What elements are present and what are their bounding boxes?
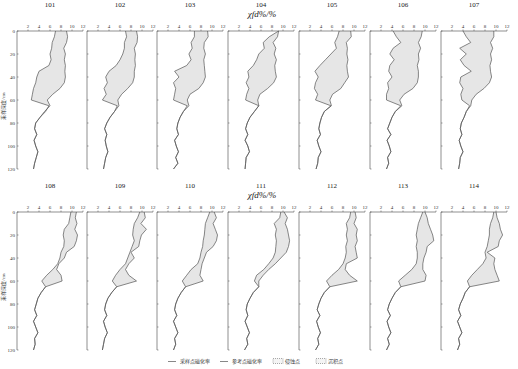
y-tick-label: 100 (8, 325, 16, 330)
panel-112: 11224681012 (299, 182, 368, 350)
x-tick-label: 10 (140, 24, 146, 29)
x-tick-label: 2 (451, 205, 454, 210)
x-tick-label: 2 (97, 205, 100, 210)
x-tick-label: 8 (342, 24, 345, 29)
x-tick-label: 4 (320, 205, 323, 210)
x-tick-label: 8 (484, 205, 487, 210)
panel-title: 104 (256, 1, 267, 9)
x-tick-label: 6 (119, 205, 122, 210)
panel-title: 106 (398, 1, 409, 9)
x-tick-label: 4 (38, 205, 41, 210)
panel-108: 10824681012020406080100120采样深度/cm (0, 182, 86, 353)
x-tick-label: 6 (119, 24, 122, 29)
x-tick-label: 12 (221, 24, 227, 29)
x-tick-label: 6 (473, 24, 476, 29)
y-tick-label: 120 (8, 348, 16, 353)
deposition-area (316, 212, 358, 350)
x-tick-label: 10 (494, 205, 500, 210)
panel-title: 108 (45, 182, 56, 190)
x-tick-label: 6 (331, 24, 334, 29)
y-axis-label: 采样深度/cm (0, 92, 7, 120)
y-axis-label: 采样深度/cm (0, 273, 7, 301)
x-tick-label: 2 (167, 205, 170, 210)
y-tick-label: 60 (10, 98, 16, 103)
panel-106: 10624681012 (370, 1, 439, 169)
panel-113: 11324681012 (370, 182, 439, 350)
x-tick-label: 4 (462, 24, 465, 29)
x-tick-label: 12 (363, 205, 369, 210)
panel-title: 103 (185, 1, 196, 9)
x-tick-label: 12 (151, 205, 157, 210)
x-tick-label: 4 (462, 205, 465, 210)
x-tick-label: 8 (130, 205, 133, 210)
panel-107: 10724681012 (441, 1, 510, 169)
x-tick-label: 10 (140, 205, 146, 210)
reference-line (245, 212, 281, 350)
x-tick-label: 12 (292, 205, 298, 210)
x-tick-label: 6 (402, 24, 405, 29)
panel-title: 110 (185, 182, 196, 190)
x-tick-label: 4 (249, 205, 252, 210)
x-tick-label: 4 (108, 205, 111, 210)
x-tick-label: 2 (97, 24, 100, 29)
x-tick-label: 10 (281, 205, 287, 210)
x-tick-label: 8 (271, 24, 274, 29)
panel-title: 109 (115, 182, 126, 190)
panel-title: 113 (398, 182, 409, 190)
x-tick-label: 2 (167, 24, 170, 29)
legend-label-sample: 采样点磁化率 (180, 358, 210, 365)
x-tick-label: 4 (178, 205, 181, 210)
x-tick-label: 6 (473, 205, 476, 210)
panel-title: 112 (327, 182, 338, 190)
x-tick-label: 12 (81, 24, 87, 29)
x-tick-label: 12 (151, 24, 157, 29)
panels-group: 10124681012020406080100120采样深度/cm1022468… (0, 1, 510, 353)
panel-110: 11024681012 (157, 182, 226, 350)
x-tick-label: 6 (260, 205, 263, 210)
erosion-area (387, 31, 423, 169)
x-tick-label: 8 (60, 205, 63, 210)
panel-title: 101 (45, 1, 56, 9)
erosion-area (245, 31, 279, 169)
panel-title: 114 (469, 182, 480, 190)
x-tick-label: 4 (108, 24, 111, 29)
x-tick-label: 2 (309, 205, 312, 210)
deposition-area (174, 212, 218, 350)
x-tick-label: 10 (352, 24, 358, 29)
erosion-area (174, 31, 209, 169)
panel-103: 10324681012 (157, 1, 226, 169)
x-tick-label: 10 (210, 205, 216, 210)
panel-title: 107 (469, 1, 480, 9)
deposition-area (245, 212, 290, 350)
panel-title: 111 (256, 182, 266, 190)
x-tick-label: 8 (342, 205, 345, 210)
x-tick-label: 2 (380, 205, 383, 210)
x-tick-label: 6 (402, 205, 405, 210)
panel-104: 10424681012 (228, 1, 297, 169)
x-tick-label: 4 (38, 24, 41, 29)
x-tick-label: 12 (434, 205, 440, 210)
x-tick-label: 12 (81, 205, 87, 210)
x-tick-label: 10 (70, 24, 76, 29)
y-tick-label: 100 (8, 144, 16, 149)
x-tick-label: 10 (210, 24, 216, 29)
panel-101: 10124681012020406080100120采样深度/cm (0, 1, 86, 172)
x-axis-label-bottom: χfd%/% (247, 190, 276, 200)
legend: 采样点磁化率参考点磁化率侵蚀点沉积点 (168, 358, 343, 365)
x-tick-label: 10 (281, 24, 287, 29)
x-tick-label: 4 (320, 24, 323, 29)
x-tick-label: 8 (413, 205, 416, 210)
x-tick-label: 2 (309, 24, 312, 29)
x-tick-label: 4 (178, 24, 181, 29)
x-tick-label: 12 (221, 205, 227, 210)
y-tick-label: 60 (10, 279, 16, 284)
y-tick-label: 20 (10, 52, 16, 57)
y-tick-label: 80 (10, 302, 16, 307)
deposition-area (102, 212, 146, 350)
y-tick-label: 80 (10, 121, 16, 126)
x-tick-label: 6 (331, 205, 334, 210)
deposition-area (387, 212, 434, 350)
legend-box-icon (273, 359, 283, 364)
x-tick-label: 12 (505, 24, 511, 29)
x-tick-label: 6 (189, 205, 192, 210)
